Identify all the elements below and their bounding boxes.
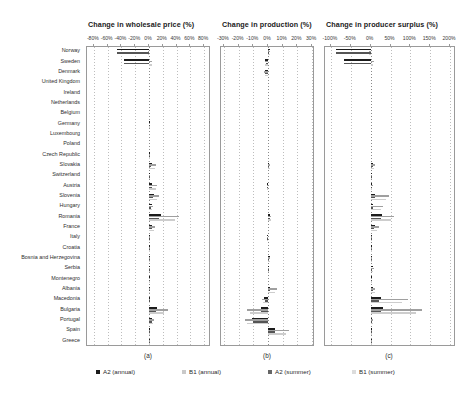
legend-swatch-icon bbox=[182, 370, 186, 374]
gridline bbox=[163, 47, 164, 345]
category-label: Belgium bbox=[0, 110, 80, 115]
legend-swatch-icon bbox=[96, 370, 100, 374]
bar bbox=[371, 64, 374, 65]
category-label: Slovenia bbox=[0, 193, 80, 198]
bar bbox=[371, 240, 372, 241]
bar bbox=[371, 302, 403, 303]
bar bbox=[149, 271, 150, 272]
gridline bbox=[450, 47, 451, 345]
bar bbox=[371, 168, 374, 169]
legend-label: A2 (summer) bbox=[275, 368, 311, 375]
bar bbox=[336, 49, 371, 50]
bar bbox=[268, 168, 270, 169]
bar bbox=[371, 333, 372, 334]
category-label: Ireland bbox=[0, 90, 80, 95]
bar bbox=[247, 323, 268, 324]
bar bbox=[371, 312, 417, 313]
tick-label: -100% bbox=[323, 35, 338, 41]
bar bbox=[371, 219, 392, 220]
bar bbox=[336, 52, 371, 53]
bar bbox=[149, 281, 150, 282]
category-label: Greece bbox=[0, 338, 80, 343]
category-label: France bbox=[0, 224, 80, 229]
gridline bbox=[312, 47, 313, 345]
plot-area-production bbox=[220, 46, 314, 346]
category-label: Austria bbox=[0, 183, 80, 188]
category-label: Bosnia and Herzegovina bbox=[0, 255, 80, 260]
legend-item-a2-annual: A2 (annual) bbox=[96, 368, 135, 375]
legend-item-a2-summer: A2 (summer) bbox=[268, 368, 311, 375]
gridline bbox=[204, 47, 205, 345]
gridline bbox=[253, 47, 254, 345]
legend-swatch-icon bbox=[352, 370, 356, 374]
panel-title-production: Change in production (%) bbox=[222, 20, 312, 29]
bar bbox=[371, 230, 378, 231]
bar bbox=[268, 333, 286, 334]
category-label: Macedonia bbox=[0, 296, 80, 301]
gridline bbox=[177, 47, 178, 345]
gridline bbox=[410, 47, 411, 345]
panel-title-wholesale-price: Change in wholesale price (%) bbox=[88, 20, 194, 29]
bar bbox=[149, 157, 150, 158]
figure-root: Change in wholesale price (%) Change in … bbox=[0, 0, 459, 395]
gridline bbox=[331, 47, 332, 345]
gridline bbox=[351, 47, 352, 345]
gridline bbox=[190, 47, 191, 345]
bar bbox=[268, 54, 270, 55]
category-label: Spain bbox=[0, 327, 80, 332]
gridline bbox=[94, 47, 95, 345]
bar bbox=[371, 250, 372, 251]
bar bbox=[149, 199, 157, 200]
category-label: Poland bbox=[0, 141, 80, 146]
bar bbox=[149, 61, 152, 62]
bar bbox=[149, 292, 150, 293]
bar bbox=[371, 61, 375, 62]
bar bbox=[149, 188, 156, 189]
category-label: Romania bbox=[0, 214, 80, 219]
value-axis-producer_surplus: -100%-50%0%50%100%150%200% bbox=[0, 35, 459, 44]
bar bbox=[371, 292, 375, 293]
gridline bbox=[239, 47, 240, 345]
category-label: Serbia bbox=[0, 265, 80, 270]
legend-label: B1 (summer) bbox=[359, 368, 395, 375]
bar bbox=[344, 63, 371, 64]
category-label: Montenegro bbox=[0, 276, 80, 281]
bar bbox=[149, 333, 150, 334]
gridline bbox=[283, 47, 284, 345]
bar bbox=[371, 281, 372, 282]
bar bbox=[124, 59, 149, 60]
category-label: United Kingdom bbox=[0, 79, 80, 84]
tick-label: 0% bbox=[366, 35, 373, 41]
bar bbox=[371, 261, 372, 262]
bar bbox=[149, 178, 150, 179]
bar bbox=[117, 52, 149, 53]
bar bbox=[149, 126, 150, 127]
category-label: Denmark bbox=[0, 69, 80, 74]
bar bbox=[268, 271, 269, 272]
bar bbox=[371, 209, 381, 210]
category-label: Croatia bbox=[0, 245, 80, 250]
legend-swatch-icon bbox=[268, 370, 272, 374]
bar bbox=[149, 209, 152, 210]
gridline bbox=[224, 47, 225, 345]
category-label: Bulgaria bbox=[0, 307, 80, 312]
bar bbox=[149, 168, 155, 169]
gridline bbox=[135, 47, 136, 345]
bar bbox=[268, 292, 275, 293]
category-label: Netherlands bbox=[0, 100, 80, 105]
bar bbox=[148, 54, 149, 55]
category-label: Switzerland bbox=[0, 172, 80, 177]
bar bbox=[149, 261, 150, 262]
gridline bbox=[297, 47, 298, 345]
bar bbox=[267, 188, 268, 189]
bar bbox=[117, 49, 149, 50]
bar bbox=[371, 188, 373, 189]
category-label: Germany bbox=[0, 121, 80, 126]
bar bbox=[149, 230, 154, 231]
tick-label: 50% bbox=[384, 35, 394, 41]
bar bbox=[268, 261, 270, 262]
bar bbox=[250, 312, 268, 313]
bar bbox=[371, 178, 372, 179]
legend-item-b1-annual: B1 (annual) bbox=[182, 368, 221, 375]
legend-item-b1-summer: B1 (summer) bbox=[352, 368, 395, 375]
